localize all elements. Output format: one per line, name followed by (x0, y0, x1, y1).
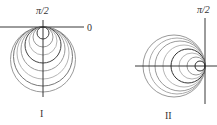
label-zero-i: 0 (87, 22, 92, 33)
figure-ii: π/2 II (135, 4, 217, 121)
caption-i: I (40, 108, 43, 119)
figure-i: π/2 0 I (0, 5, 92, 119)
label-pi-over-2-i: π/2 (36, 5, 49, 16)
label-pi-over-2-ii: π/2 (197, 4, 210, 15)
polar-diagrams: π/2 0 I π/2 II (0, 0, 217, 125)
caption-ii: II (165, 110, 172, 121)
